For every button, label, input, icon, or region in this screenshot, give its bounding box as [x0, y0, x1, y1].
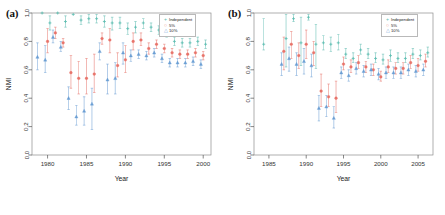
- x-tick-label: 1990: [119, 160, 133, 167]
- x-tick-label: 1995: [157, 160, 171, 167]
- x-tick-label: 2000: [374, 160, 388, 167]
- legend-symbol-10--icon: △: [384, 28, 391, 34]
- legend-entry: △10%: [384, 28, 414, 34]
- legend-symbol-10--icon: △: [162, 28, 169, 34]
- series-10-: [36, 30, 203, 129]
- figure-container: (a) 0.00.20.40.60.81.0198019851990199520…: [0, 0, 445, 215]
- y-tick-label: 0.8: [23, 37, 30, 46]
- y-tick-label: 0.0: [23, 150, 30, 159]
- x-tick-label: 1985: [80, 160, 94, 167]
- panel-a-legend: +Independent○5%△10%: [159, 14, 196, 37]
- y-tick-label: 1.0: [23, 8, 30, 17]
- y-tick-label: 0.6: [245, 65, 252, 74]
- panel-b: (b) 0.00.20.40.60.81.0198519901995200020…: [222, 0, 444, 215]
- y-axis-title: NMI: [5, 78, 12, 91]
- series-5-: [46, 27, 204, 94]
- y-tick-label: 0.2: [245, 122, 252, 131]
- x-tick-label: 1985: [262, 160, 276, 167]
- y-axis-title: NMI: [227, 78, 234, 91]
- series-10-: [280, 47, 425, 128]
- x-axis-title: Year: [115, 175, 129, 182]
- panel-a: (a) 0.00.20.40.60.81.0198019851990199520…: [0, 0, 222, 215]
- x-tick-label: 2000: [196, 160, 210, 167]
- legend-entry: △10%: [162, 28, 192, 34]
- y-tick-label: 0.4: [23, 93, 30, 102]
- y-tick-label: 0.2: [23, 122, 30, 131]
- x-tick-label: 1995: [337, 160, 351, 167]
- y-tick-label: 1.0: [245, 8, 252, 17]
- x-axis-title: Year: [337, 175, 351, 182]
- y-tick-label: 0.0: [245, 150, 252, 159]
- y-tick-label: 0.8: [245, 37, 252, 46]
- x-tick-label: 1990: [299, 160, 313, 167]
- legend-label: 10%: [391, 28, 399, 34]
- x-tick-label: 2005: [411, 160, 425, 167]
- x-tick-label: 1980: [41, 160, 55, 167]
- y-tick-label: 0.4: [245, 93, 252, 102]
- y-tick-label: 0.6: [23, 65, 30, 74]
- legend-label: 10%: [169, 28, 177, 34]
- panel-b-legend: +Independent○5%△10%: [381, 14, 418, 37]
